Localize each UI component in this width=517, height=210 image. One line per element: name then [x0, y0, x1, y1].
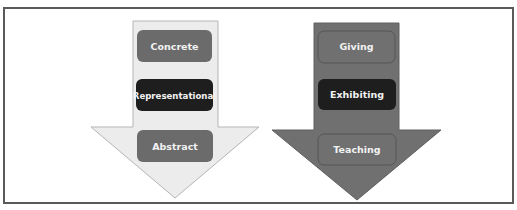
step-exhibiting: Exhibiting — [318, 79, 396, 110]
right-arrow: Giving Exhibiting Teaching — [272, 23, 441, 200]
step-label: Abstract — [152, 141, 198, 152]
step-label: Representational — [133, 91, 217, 101]
diagram-canvas: Concrete Representational Abstract Givin… — [0, 0, 517, 210]
step-teaching: Teaching — [318, 134, 396, 165]
step-label: Giving — [339, 41, 373, 52]
step-representational: Representational — [133, 79, 217, 111]
step-label: Exhibiting — [330, 89, 384, 100]
step-concrete: Concrete — [137, 30, 212, 62]
step-label: Concrete — [150, 41, 198, 52]
step-giving: Giving — [318, 31, 395, 63]
left-arrow: Concrete Representational Abstract — [91, 21, 259, 198]
step-label: Teaching — [333, 144, 380, 155]
step-abstract: Abstract — [137, 130, 213, 162]
